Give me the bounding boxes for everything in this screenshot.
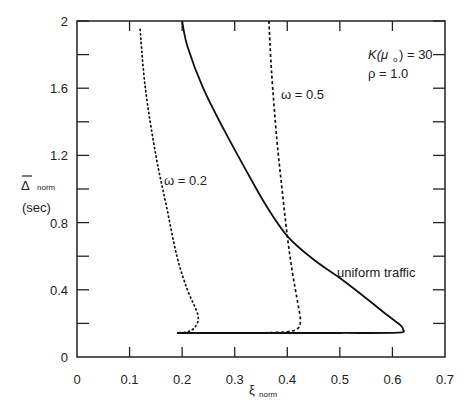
x-tick-label: 0.4 [278, 372, 296, 387]
k-param-subscript: o [393, 55, 398, 64]
x-tick-label: 0 [73, 372, 80, 387]
x-title-symbol: ξ [249, 382, 255, 397]
curve--0-5 [266, 21, 300, 333]
x-tick-label: 0.3 [226, 372, 244, 387]
x-tick-label: 0.6 [383, 372, 401, 387]
y-title-unit: (sec) [22, 200, 51, 215]
y-tick-label: 2 [61, 14, 68, 29]
x-tick-label: 0.2 [173, 372, 191, 387]
y-tick-label: 0 [61, 350, 68, 365]
y-tick-label: 1.2 [50, 148, 68, 163]
y-axis-title: Δ norm (sec) [21, 176, 56, 215]
y-title-symbol: Δ [21, 178, 30, 193]
y-tick-label: 0.8 [50, 216, 68, 231]
x-tick-label: 0.7 [436, 372, 454, 387]
y-tick-label: 0.4 [50, 283, 68, 298]
k-param-label: K(μ [368, 47, 388, 62]
x-title-subscript: norm [259, 390, 278, 399]
x-axis-title: ξ norm [249, 382, 278, 399]
omega-0.2-label: ω = 0.2 [164, 173, 207, 188]
omega-0.5-label: ω = 0.5 [281, 87, 324, 102]
parameter-annotation: K(μ o ) = 30 ρ = 1.0 [368, 47, 433, 81]
y-title-subscript: norm [37, 183, 56, 192]
y-tick-label: 1.6 [50, 81, 68, 96]
rho-param-label: ρ = 1.0 [368, 66, 408, 81]
k-param-value: ) = 30 [399, 47, 433, 62]
x-tick-label: 0.5 [331, 372, 349, 387]
chart: 00.10.20.30.40.50.60.700.40.81.21.62 Δ n… [0, 0, 472, 413]
x-tick-label: 0.1 [121, 372, 139, 387]
uniform-traffic-label: uniform traffic [337, 265, 416, 280]
